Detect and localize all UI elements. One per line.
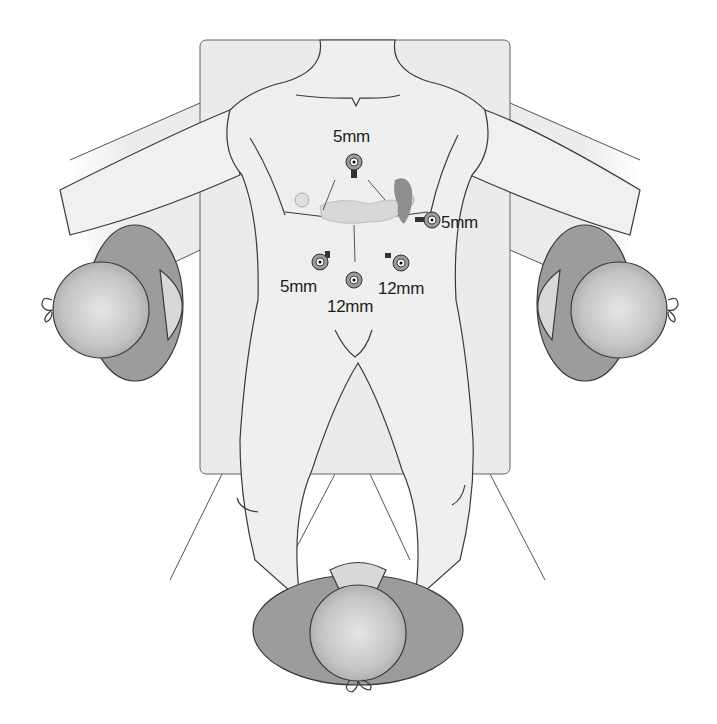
label-umbilical-port: 12mm <box>327 297 373 317</box>
port-umbilical <box>346 272 362 288</box>
label-right-lateral-port: 5mm <box>280 277 317 297</box>
surgeon-left <box>42 225 183 381</box>
surgeon-right <box>537 225 678 381</box>
label-left-lateral-port: 12mm <box>378 279 424 299</box>
nipple-left <box>295 193 309 207</box>
label-epigastric-port: 5mm <box>333 127 370 147</box>
port-placement-diagram <box>0 0 717 724</box>
label-left-subcostal-port: 5mm <box>441 213 478 233</box>
